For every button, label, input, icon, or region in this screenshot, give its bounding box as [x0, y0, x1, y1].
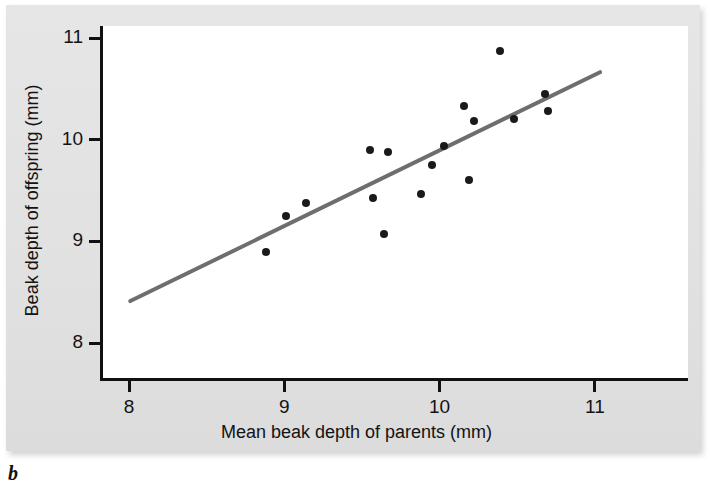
- plot-area: [100, 26, 688, 381]
- x-tick-9: [283, 381, 286, 392]
- x-tick-label-8: 8: [99, 396, 159, 418]
- data-point: [282, 212, 290, 220]
- data-point: [380, 230, 388, 238]
- data-point: [541, 90, 549, 98]
- plot-inner: [103, 26, 688, 378]
- y-tick-11: [89, 37, 100, 40]
- y-tick-label-10: 10: [43, 128, 83, 150]
- data-point: [366, 146, 374, 154]
- y-tick-9: [89, 240, 100, 243]
- data-point: [417, 190, 425, 198]
- regression-line: [103, 26, 688, 378]
- x-tick-10: [438, 381, 441, 392]
- data-point: [428, 161, 436, 169]
- data-point: [302, 199, 310, 207]
- panel-letter: b: [8, 462, 18, 485]
- y-tick-label-9: 9: [43, 229, 83, 251]
- x-tick-label-9: 9: [254, 396, 314, 418]
- data-point: [262, 248, 270, 256]
- figure-container: 891011 891011 Mean beak depth of parents…: [0, 0, 713, 495]
- x-tick-label-10: 10: [410, 396, 470, 418]
- y-axis-label: Beak depth of offspring (mm): [22, 36, 43, 366]
- data-point: [440, 142, 448, 150]
- y-tick-label-11: 11: [43, 26, 83, 48]
- y-tick-8: [89, 342, 100, 345]
- x-tick-label-11: 11: [565, 396, 625, 418]
- data-point: [369, 194, 377, 202]
- x-tick-8: [128, 381, 131, 392]
- y-tick-label-8: 8: [43, 331, 83, 353]
- y-tick-10: [89, 138, 100, 141]
- x-tick-11: [593, 381, 596, 392]
- x-axis-label: Mean beak depth of parents (mm): [0, 422, 713, 443]
